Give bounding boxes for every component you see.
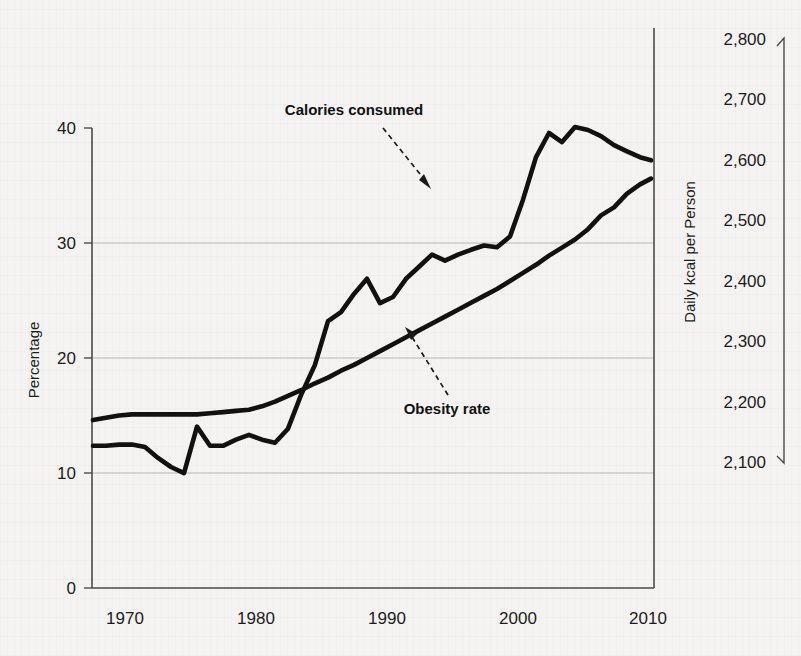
left-tick-label-30: 30: [57, 234, 76, 253]
right-tick-label-2800: 2,800: [723, 30, 766, 49]
left-axis-title: Percentage: [25, 322, 42, 399]
bottom-axis-tick-labels: 1970 1980 1990 2000 2010: [106, 609, 667, 628]
bottom-tick-label-2010: 2010: [629, 609, 667, 628]
calories-consumed-label: Calories consumed: [285, 101, 423, 118]
bottom-tick-label-1990: 1990: [368, 609, 406, 628]
calories-consumed-leader-line: [383, 128, 424, 179]
right-tick-label-2500: 2,500: [723, 211, 766, 230]
right-axis-title: Daily kcal per Person: [681, 181, 698, 323]
left-tick-label-20: 20: [57, 349, 76, 368]
right-tick-label-2200: 2,200: [723, 393, 766, 412]
series-line-obesity-rate: [93, 179, 651, 421]
bottom-tick-label-1980: 1980: [237, 609, 275, 628]
series-line-calories-consumed: [93, 127, 651, 473]
obesity-rate-leader-line: [412, 337, 448, 395]
right-tick-label-2600: 2,600: [723, 151, 766, 170]
gridlines: [92, 243, 654, 473]
bottom-tick-label-1970: 1970: [106, 609, 144, 628]
left-tick-label-0: 0: [67, 579, 76, 598]
left-tick-label-10: 10: [57, 464, 76, 483]
right-axis-tick-labels: 2,800 2,700 2,600 2,500 2,400 2,300 2,20…: [723, 30, 766, 472]
right-tick-label-2300: 2,300: [723, 332, 766, 351]
calories-consumed-arrow-head: [419, 174, 431, 189]
obesity-rate-label: Obesity rate: [404, 400, 491, 417]
bottom-tick-label-2000: 2000: [499, 609, 537, 628]
right-tick-label-2700: 2,700: [723, 90, 766, 109]
right-axis-bracket: [777, 38, 784, 463]
left-tick-label-40: 40: [57, 119, 76, 138]
annotation-calories-consumed: Calories consumed: [285, 101, 431, 189]
chart-figure: 0 10 20 30 40 Percentage 1970 1980 1990 …: [0, 0, 801, 656]
right-tick-label-2100: 2,100: [723, 453, 766, 472]
left-axis-tick-labels: 0 10 20 30 40: [57, 119, 76, 598]
annotation-obesity-rate: Obesity rate: [404, 327, 491, 417]
chart-svg: 0 10 20 30 40 Percentage 1970 1980 1990 …: [0, 0, 801, 656]
right-tick-label-2400: 2,400: [723, 272, 766, 291]
left-axis-ticks: [84, 128, 92, 588]
